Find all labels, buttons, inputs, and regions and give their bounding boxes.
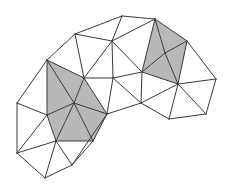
mesh-edge (112, 41, 142, 72)
mesh-edge (169, 84, 178, 119)
mesh-edge (178, 84, 206, 114)
mesh-edge (84, 41, 112, 78)
mesh-edge (17, 115, 47, 153)
mesh-edge (47, 34, 75, 60)
mesh-edge (113, 78, 141, 103)
mesh-edge (17, 103, 47, 115)
mesh-edge (141, 84, 178, 103)
mesh-edge (45, 165, 72, 178)
mesh-edge (178, 79, 216, 84)
mesh-edge (141, 72, 142, 103)
mesh-edge (112, 41, 113, 78)
mesh-edge (75, 16, 122, 34)
triangulated-mesh-figure (0, 0, 229, 190)
mesh-edge (141, 103, 169, 119)
mesh-edge (72, 141, 93, 165)
mesh-edge (107, 103, 141, 114)
mesh-edge (17, 60, 47, 103)
mesh-edges (17, 16, 216, 178)
mesh-diagram (0, 0, 229, 190)
mesh-edge (75, 34, 112, 41)
mesh-edge (75, 34, 84, 78)
mesh-edge (45, 141, 56, 178)
mesh-edge (112, 19, 155, 41)
mesh-edge (122, 16, 155, 19)
mesh-edge (56, 141, 72, 165)
mesh-edge (169, 114, 206, 119)
mesh-edge (17, 153, 45, 178)
mesh-edge (107, 78, 113, 114)
mesh-edge (187, 41, 216, 79)
mesh-edge (113, 72, 142, 78)
mesh-edge (17, 141, 56, 153)
mesh-edge (206, 79, 216, 114)
